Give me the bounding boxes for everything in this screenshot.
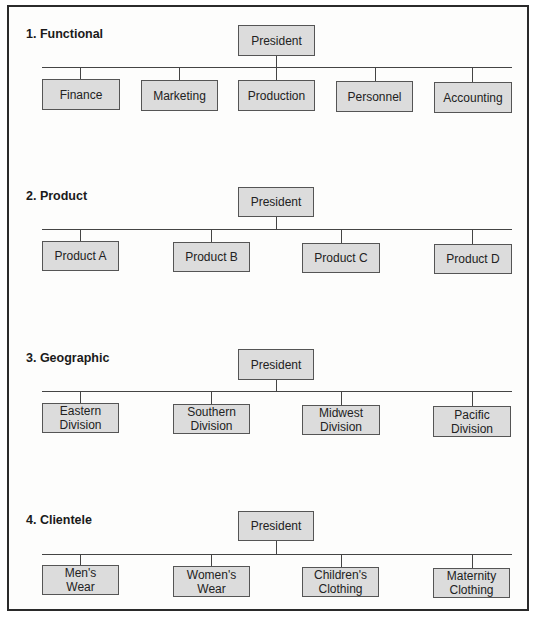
connector xyxy=(375,68,376,81)
division-box-southern: Southern Division xyxy=(173,404,250,434)
section-title: 1. Functional xyxy=(26,27,103,41)
connector xyxy=(276,217,277,229)
president-box: President xyxy=(238,25,315,56)
connector xyxy=(211,391,212,404)
connector xyxy=(341,230,342,243)
branch-line xyxy=(42,391,512,392)
connector xyxy=(80,554,81,565)
department-box-personnel: Personnel xyxy=(336,81,413,112)
department-box-finance: Finance xyxy=(42,79,120,110)
connector xyxy=(472,230,473,244)
connector xyxy=(179,67,180,80)
department-box-accounting: Accounting xyxy=(434,82,512,113)
department-box-marketing: Marketing xyxy=(141,80,218,111)
division-box-eastern: Eastern Division xyxy=(42,403,119,433)
branch-line xyxy=(42,554,512,555)
connector xyxy=(276,380,277,391)
clientele-box-maternity-clothing: Maternity Clothing xyxy=(433,568,510,598)
president-box: President xyxy=(238,511,314,541)
president-box: President xyxy=(238,187,314,217)
department-box-production: Production xyxy=(238,80,315,111)
division-box-midwest: Midwest Division xyxy=(302,405,380,435)
connector xyxy=(472,555,473,568)
connector xyxy=(211,229,212,242)
branch-line xyxy=(42,67,512,68)
division-box-pacific: Pacific Division xyxy=(433,406,511,437)
clientele-box-childrens-clothing: Children's Clothing xyxy=(302,567,379,597)
connector xyxy=(472,392,473,406)
connector xyxy=(80,67,81,79)
connector xyxy=(472,68,473,82)
clientele-box-mens-wear: Men's Wear xyxy=(42,565,119,595)
section-title: 3. Geographic xyxy=(26,351,109,365)
product-box-a: Product A xyxy=(42,241,119,271)
clientele-box-womens-wear: Women's Wear xyxy=(173,566,250,597)
connector xyxy=(341,555,342,567)
connector xyxy=(276,56,277,80)
connector xyxy=(276,541,277,554)
connector xyxy=(80,391,81,403)
section-title: 4. Clientele xyxy=(26,513,92,527)
connector xyxy=(211,554,212,566)
product-box-d: Product D xyxy=(434,244,512,274)
section-title: 2. Product xyxy=(26,189,87,203)
connector xyxy=(341,392,342,405)
product-box-c: Product C xyxy=(302,243,380,273)
branch-line xyxy=(42,229,512,230)
product-box-b: Product B xyxy=(173,242,250,272)
connector xyxy=(80,229,81,241)
president-box: President xyxy=(238,349,314,380)
